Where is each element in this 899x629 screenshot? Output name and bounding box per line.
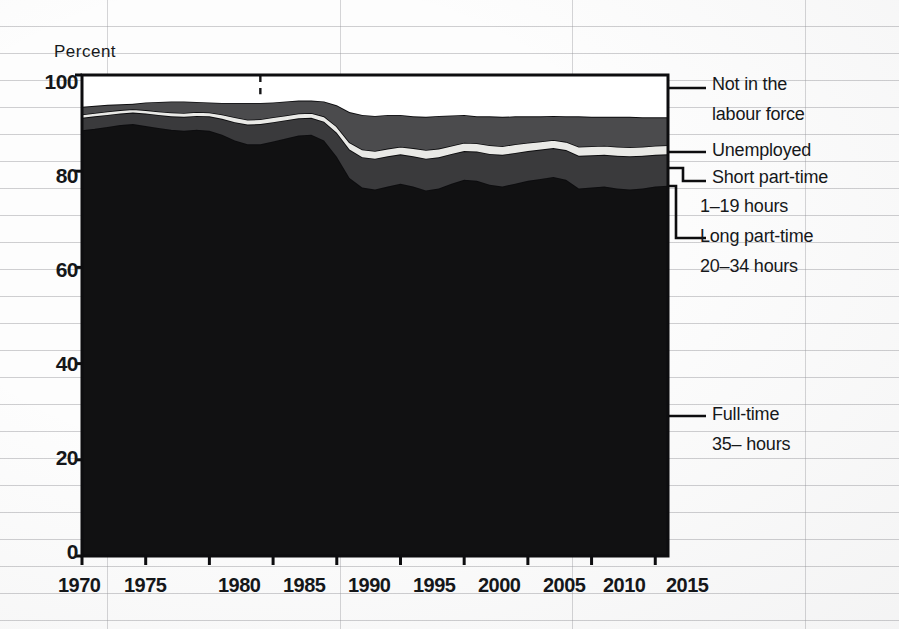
- x-tick-label: 1985: [283, 574, 326, 597]
- y-tick-label: 100: [16, 70, 78, 94]
- x-tick-label: 2010: [603, 574, 646, 597]
- stacked-area-chart: Percent 100 80 60 40 20 0 1970 1975 1980…: [0, 0, 899, 629]
- area-series-group: [82, 75, 668, 556]
- y-tick-label: 60: [16, 258, 78, 282]
- x-tick-label: 1970: [58, 574, 101, 597]
- x-tick-label: 1990: [348, 574, 391, 597]
- y-tick-label: 20: [16, 446, 78, 470]
- x-tick-label: 2015: [666, 574, 709, 597]
- legend-sublabel-long-part-time: 20–34 hours: [700, 256, 798, 277]
- y-tick-label: 40: [16, 352, 78, 376]
- legend-sublabel-not-in-labour-force: labour force: [712, 104, 805, 125]
- legend-leader-lines: [668, 88, 706, 416]
- x-tick-label: 2000: [478, 574, 521, 597]
- legend-label-short-part-time: Short part-time: [712, 167, 828, 188]
- legend-label-unemployed: Unemployed: [712, 140, 811, 161]
- x-tick-label: 2005: [543, 574, 586, 597]
- y-tick-label: 80: [16, 164, 78, 188]
- legend-sublabel-short-part-time: 1–19 hours: [700, 196, 788, 217]
- legend-sublabel-full-time: 35– hours: [712, 434, 790, 455]
- x-tick-label: 1980: [218, 574, 261, 597]
- y-tick-label: 0: [16, 540, 78, 564]
- legend-label-full-time: Full-time: [712, 404, 779, 425]
- x-tick-label: 1975: [124, 574, 167, 597]
- x-tick-label: 1995: [413, 574, 456, 597]
- legend-label-long-part-time: Long part-time: [700, 226, 813, 247]
- legend-leader-line: [668, 168, 706, 181]
- legend-label-not-in-labour-force: Not in the: [712, 74, 787, 95]
- y-axis-title: Percent: [54, 42, 116, 62]
